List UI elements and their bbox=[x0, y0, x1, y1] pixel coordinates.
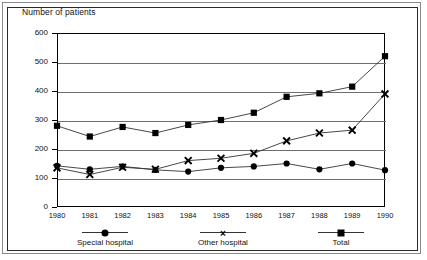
y-tick-label-500: 500 bbox=[14, 58, 48, 66]
series-total bbox=[54, 53, 388, 140]
y-tick-label-400: 400 bbox=[14, 87, 48, 95]
series-layer bbox=[57, 33, 385, 207]
legend-label: Other hospital bbox=[175, 238, 271, 247]
legend-label: Special hospital bbox=[57, 238, 153, 247]
marker-square bbox=[54, 123, 60, 129]
series-line bbox=[57, 94, 385, 175]
marker-circle bbox=[382, 167, 388, 173]
legend-item-other-hospital[interactable]: ×Other hospital bbox=[175, 228, 271, 247]
marker-square bbox=[316, 90, 322, 96]
legend-item-total[interactable]: Total bbox=[293, 228, 389, 247]
x-tick-label-1990: 1990 bbox=[365, 211, 405, 220]
y-tick-label-0: 0 bbox=[14, 203, 48, 211]
marker-circle bbox=[185, 169, 191, 175]
marker-circle bbox=[284, 160, 290, 166]
marker-square bbox=[218, 117, 224, 123]
legend-item-special-hospital[interactable]: Special hospital bbox=[57, 228, 153, 247]
y-tick-label-200: 200 bbox=[14, 145, 48, 153]
marker-square bbox=[120, 124, 126, 130]
series-special-hospital bbox=[54, 160, 388, 174]
marker-square bbox=[87, 133, 93, 139]
y-tick-label-600: 600 bbox=[14, 29, 48, 37]
legend-marker-x-icon: × bbox=[219, 228, 228, 237]
legend-sample bbox=[318, 228, 364, 237]
marker-circle bbox=[251, 163, 257, 169]
chart-legend: Special hospital×Other hospitalTotal bbox=[57, 228, 387, 254]
marker-circle bbox=[316, 166, 322, 172]
marker-square bbox=[349, 84, 355, 90]
legend-label: Total bbox=[293, 238, 389, 247]
chart-title: Number of patients bbox=[22, 7, 96, 17]
y-tick-label-100: 100 bbox=[14, 174, 48, 182]
marker-square bbox=[185, 122, 191, 128]
marker-circle bbox=[349, 160, 355, 166]
marker-square bbox=[284, 94, 290, 100]
legend-sample: × bbox=[200, 228, 246, 237]
legend-marker-circle-icon bbox=[102, 229, 109, 236]
marker-square bbox=[152, 130, 158, 136]
y-tick-label-300: 300 bbox=[14, 116, 48, 124]
marker-circle bbox=[218, 165, 224, 171]
marker-square bbox=[382, 53, 388, 59]
chart-figure: Number of patients 0100200300400500600 1… bbox=[0, 0, 427, 260]
marker-square bbox=[251, 110, 257, 116]
legend-marker-square-icon bbox=[338, 229, 345, 236]
series-line bbox=[57, 56, 385, 136]
y-tick-mark-0 bbox=[52, 207, 57, 208]
legend-sample bbox=[82, 228, 128, 237]
